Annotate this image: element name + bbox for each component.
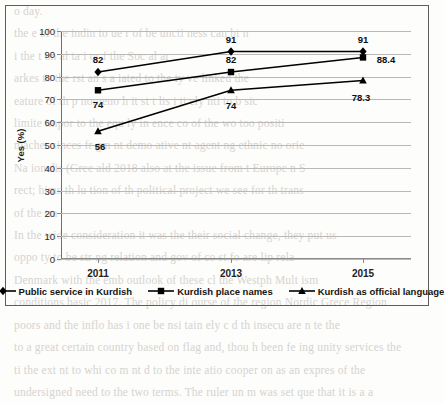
y-tick-label: 30 bbox=[44, 185, 55, 196]
square-marker bbox=[228, 69, 234, 75]
legend-item-3[interactable]: Kurdish as official language bbox=[289, 285, 444, 297]
y-tick-label: 60 bbox=[44, 117, 55, 128]
diamond-marker bbox=[0, 287, 6, 295]
data-label: 88.4 bbox=[377, 54, 396, 65]
data-label: 74 bbox=[93, 99, 104, 110]
plot-area: 0102030405060708090100 829191748288.4567… bbox=[61, 31, 411, 259]
x-tick-mark bbox=[363, 259, 364, 263]
y-tick-mark bbox=[57, 259, 61, 260]
y-tick-label: 100 bbox=[39, 26, 55, 37]
y-tick-label: 0 bbox=[50, 254, 55, 265]
diamond-marker bbox=[94, 68, 101, 76]
series-svg-layer bbox=[61, 31, 411, 259]
chart-legend: Public service in KurdishKurdish place n… bbox=[6, 285, 428, 297]
square-marker bbox=[95, 87, 101, 93]
bleedthrough-line: ti the ext nt to whi co m nt d to the in… bbox=[0, 359, 436, 381]
y-tick-label: 50 bbox=[44, 140, 55, 151]
x-tick-label: 2013 bbox=[220, 268, 242, 279]
square-marker bbox=[158, 288, 164, 294]
x-tick-mark bbox=[98, 259, 99, 263]
x-tick-mark bbox=[231, 259, 232, 263]
legend-label: Kurdish place names bbox=[177, 286, 273, 297]
bleedthrough-line: poors and the inflo has i one be nsi tai… bbox=[0, 314, 436, 336]
legend-item-1[interactable]: Public service in Kurdish bbox=[0, 285, 132, 297]
triangle-marker-icon bbox=[289, 285, 315, 297]
y-tick-label: 90 bbox=[44, 48, 55, 59]
data-label: 82 bbox=[226, 54, 237, 65]
y-axis-title: Yes (%) bbox=[14, 31, 28, 259]
square-marker-icon bbox=[148, 285, 174, 297]
bleedthrough-line: to a great certain country based on flag… bbox=[0, 336, 436, 358]
y-tick-label: 40 bbox=[44, 162, 55, 173]
y-gridline bbox=[61, 259, 411, 260]
y-tick-label: 80 bbox=[44, 71, 55, 82]
y-tick-label: 20 bbox=[44, 208, 55, 219]
data-label: 74 bbox=[226, 100, 237, 111]
legend-label: Kurdish as official language bbox=[318, 286, 444, 297]
square-marker bbox=[360, 54, 366, 60]
data-label: 91 bbox=[226, 33, 237, 44]
x-tick-label: 2015 bbox=[352, 268, 374, 279]
chart-figure: Yes (%) 0102030405060708090100 829191748… bbox=[5, 5, 429, 306]
legend-label: Public service in Kurdish bbox=[19, 286, 133, 297]
y-tick-label: 70 bbox=[44, 94, 55, 105]
data-label: 78.3 bbox=[352, 92, 371, 103]
bleedthrough-line: undersigned need to the two terms. The r… bbox=[0, 381, 436, 403]
data-label: 56 bbox=[95, 141, 106, 152]
legend-item-2[interactable]: Kurdish place names bbox=[148, 285, 273, 297]
y-axis-title-text: Yes (%) bbox=[16, 128, 27, 162]
data-label: 91 bbox=[358, 33, 369, 44]
data-label: 82 bbox=[93, 54, 104, 65]
x-tick-label: 2011 bbox=[87, 268, 109, 279]
y-tick-label: 10 bbox=[44, 231, 55, 242]
diamond-marker-icon bbox=[0, 285, 16, 297]
